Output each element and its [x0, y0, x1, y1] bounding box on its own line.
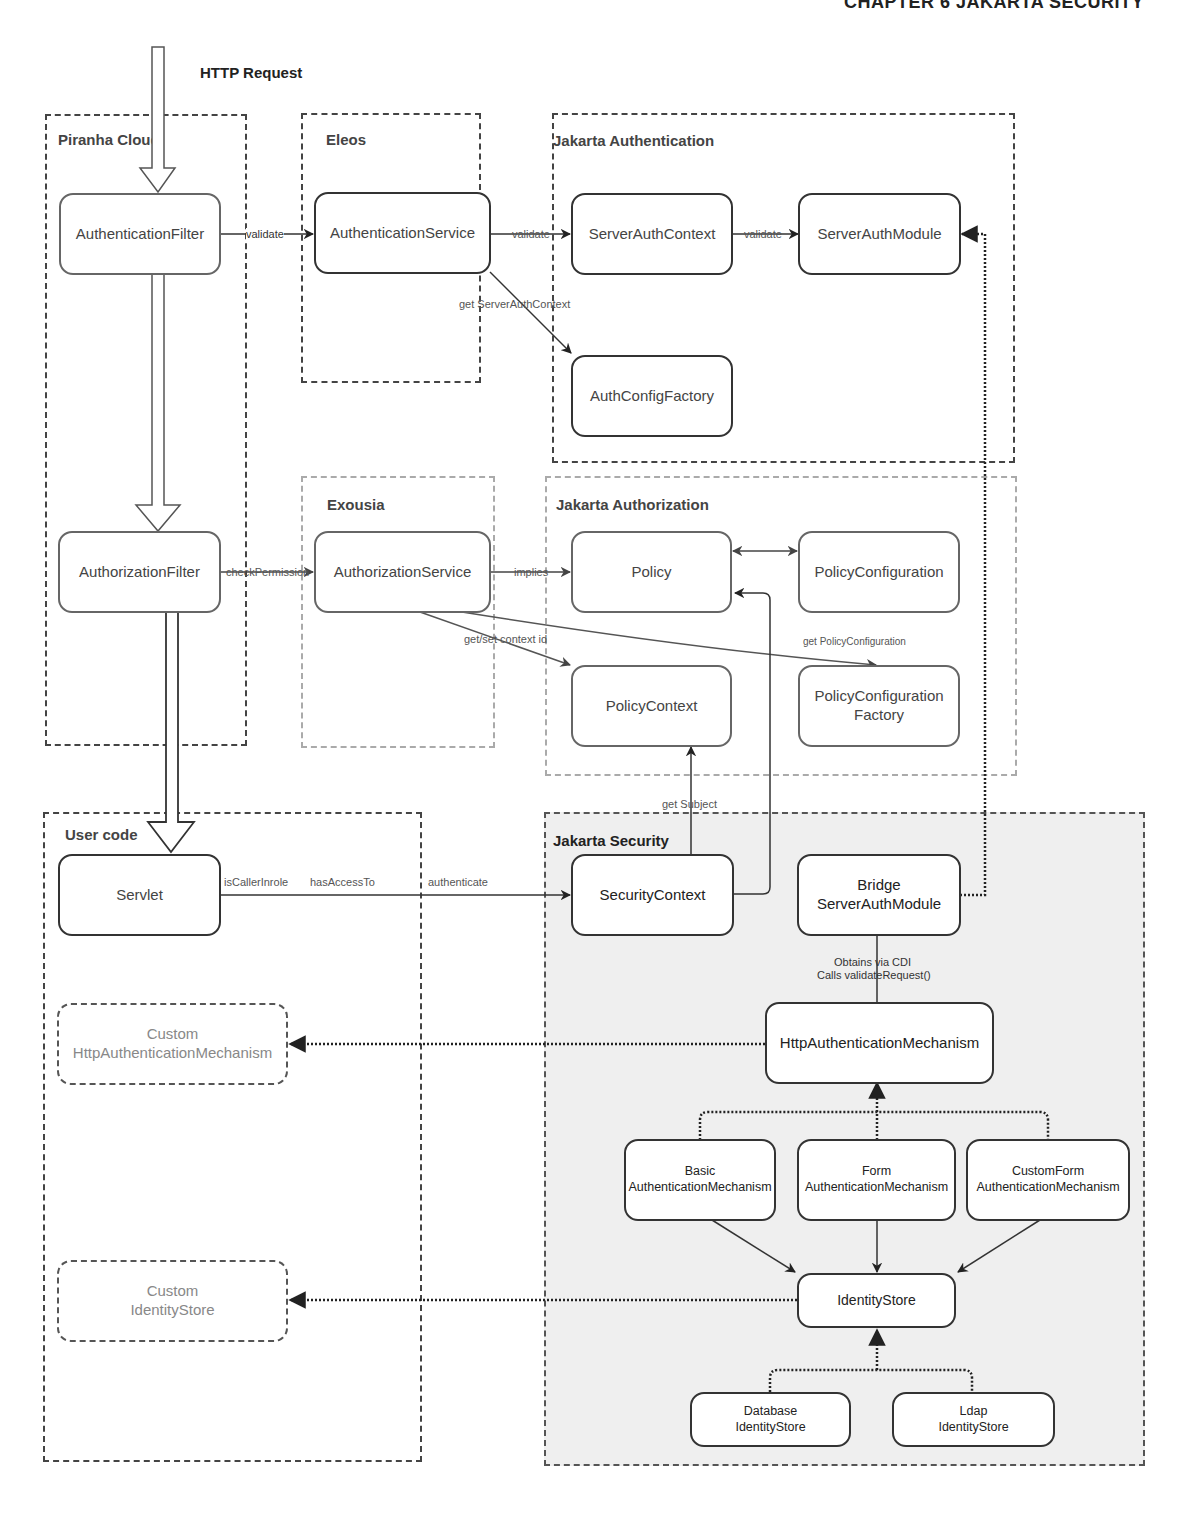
- edge-label-validate-3: validate: [744, 228, 782, 240]
- node-label: AuthorizationFilter: [79, 563, 200, 582]
- node-custom-http-authentication-mechanism[interactable]: CustomHttpAuthenticationMechanism: [57, 1003, 288, 1085]
- edge-label-implies: implies: [514, 566, 548, 578]
- node-identity-store[interactable]: IdentityStore: [797, 1273, 956, 1328]
- node-label: AuthenticationService: [330, 224, 475, 243]
- node-policy-context[interactable]: PolicyContext: [571, 665, 732, 747]
- node-label: SecurityContext: [600, 886, 706, 905]
- http-request-arrow: [140, 47, 175, 192]
- node-label-line2: IdentityStore: [735, 1420, 805, 1436]
- edge-label-check-permission: checkPermission: [226, 566, 309, 578]
- node-label-line1: Custom: [147, 1282, 199, 1301]
- node-label-line1: Ldap: [960, 1404, 988, 1420]
- node-bridge-server-auth-module[interactable]: BridgeServerAuthModule: [797, 854, 961, 936]
- node-label: AuthConfigFactory: [590, 387, 714, 406]
- filter-chain-arrow-1: [136, 274, 180, 531]
- node-custom-identity-store[interactable]: CustomIdentityStore: [57, 1260, 288, 1342]
- node-database-identity-store[interactable]: DatabaseIdentityStore: [690, 1392, 851, 1447]
- edge-label-is-caller-in-role: isCallerInrole: [224, 876, 288, 888]
- filter-chain-arrow-2: [148, 612, 194, 852]
- node-label: Policy: [631, 563, 671, 582]
- node-ldap-identity-store[interactable]: LdapIdentityStore: [892, 1392, 1055, 1447]
- node-basic-authentication-mechanism[interactable]: BasicAuthenticationMechanism: [624, 1139, 776, 1221]
- node-label-line1: Database: [744, 1404, 798, 1420]
- node-label: HttpAuthenticationMechanism: [780, 1034, 979, 1053]
- node-label-line2: AuthenticationMechanism: [805, 1180, 948, 1196]
- edge-label-validate-1: validate: [246, 228, 284, 240]
- edge-label-authenticate: authenticate: [428, 876, 488, 888]
- node-label-line1: Basic: [685, 1164, 716, 1180]
- node-authentication-service[interactable]: AuthenticationService: [314, 192, 491, 274]
- edge-label-get-set-context-id: get/set context id: [464, 633, 547, 645]
- node-security-context[interactable]: SecurityContext: [571, 854, 734, 936]
- node-policy[interactable]: Policy: [571, 531, 732, 613]
- edge-label-get-server-auth-context: get ServerAuthContext: [459, 298, 570, 310]
- edge-label-calls-validate-request: Calls validateRequest(): [817, 969, 931, 981]
- http-request-label: HTTP Request: [200, 64, 302, 81]
- node-authorization-filter[interactable]: AuthorizationFilter: [58, 531, 221, 613]
- node-policy-configuration-factory[interactable]: PolicyConfigurationFactory: [798, 665, 960, 747]
- node-label-line2: ServerAuthModule: [817, 895, 941, 914]
- node-authentication-filter[interactable]: AuthenticationFilter: [59, 193, 221, 275]
- node-label: PolicyContext: [606, 697, 698, 716]
- node-label-line1: CustomForm: [1012, 1164, 1084, 1180]
- edge-label-has-access-to: hasAccessTo: [310, 876, 375, 888]
- node-label: Servlet: [116, 886, 163, 905]
- node-label-line1: Bridge: [857, 876, 900, 895]
- node-label-line2: AuthenticationMechanism: [628, 1180, 771, 1196]
- node-servlet[interactable]: Servlet: [58, 854, 221, 936]
- edge-label-get-policy-configuration: get PolicyConfiguration: [803, 636, 906, 647]
- node-label-line1: PolicyConfiguration: [814, 687, 943, 706]
- node-server-auth-context[interactable]: ServerAuthContext: [571, 193, 733, 275]
- node-server-auth-module[interactable]: ServerAuthModule: [798, 193, 961, 275]
- node-label-line2: AuthenticationMechanism: [976, 1180, 1119, 1196]
- node-label: ServerAuthContext: [589, 225, 716, 244]
- node-label-line2: HttpAuthenticationMechanism: [73, 1044, 272, 1063]
- node-label-line1: Form: [862, 1164, 891, 1180]
- node-policy-configuration[interactable]: PolicyConfiguration: [798, 531, 960, 613]
- node-label: AuthorizationService: [334, 563, 472, 582]
- node-label-line2: IdentityStore: [130, 1301, 214, 1320]
- node-label: IdentityStore: [837, 1292, 916, 1310]
- edge-label-validate-2: validate: [512, 228, 550, 240]
- node-label-line2: Factory: [854, 706, 904, 725]
- node-label-line1: Custom: [147, 1025, 199, 1044]
- node-auth-config-factory[interactable]: AuthConfigFactory: [571, 355, 733, 437]
- node-label: ServerAuthModule: [817, 225, 941, 244]
- node-label-line2: IdentityStore: [938, 1420, 1008, 1436]
- edge-label-get-subject: get Subject: [662, 798, 717, 810]
- node-custom-form-authentication-mechanism[interactable]: CustomFormAuthenticationMechanism: [966, 1139, 1130, 1221]
- node-label: AuthenticationFilter: [76, 225, 204, 244]
- node-authorization-service[interactable]: AuthorizationService: [314, 531, 491, 613]
- edge-label-obtains-via-cdi: Obtains via CDI: [834, 956, 911, 968]
- node-http-authentication-mechanism[interactable]: HttpAuthenticationMechanism: [765, 1002, 994, 1084]
- node-label: PolicyConfiguration: [814, 563, 943, 582]
- node-form-authentication-mechanism[interactable]: FormAuthenticationMechanism: [797, 1139, 956, 1221]
